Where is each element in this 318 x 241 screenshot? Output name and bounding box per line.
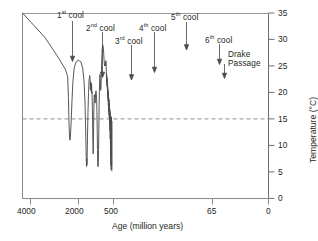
y-tick-label-5: 5: [278, 167, 283, 177]
cool2-word: cool: [99, 24, 114, 33]
x-tick-label-2000: 2000: [65, 206, 84, 216]
cool2-suffix: nd: [91, 22, 97, 28]
y-tick-label-0: 0: [278, 193, 283, 203]
drake-line-1: Drake: [228, 50, 261, 59]
arrow-5th-cool: [184, 22, 188, 50]
chart-plot-area: [0, 0, 318, 241]
temperature-curve: [23, 13, 112, 171]
cool4-word: cool: [151, 24, 166, 33]
x-tick-label-0: 0: [266, 206, 271, 216]
drake-line-2: Passage: [228, 59, 261, 68]
cool1-suffix: st: [62, 9, 67, 15]
arrow-1st-cool: [70, 21, 74, 62]
annotation-2nd-cool: 2nd cool: [86, 24, 115, 33]
annotation-drake-passage: Drake Passage: [228, 50, 261, 69]
cool1-word: cool: [69, 11, 84, 20]
x-tick-label-65: 65: [207, 206, 216, 216]
arrow-6th-cool: [217, 44, 221, 65]
cool3-word: cool: [127, 37, 142, 46]
arrow-4th-cool: [152, 32, 156, 73]
annotation-4th-cool: 4th cool: [139, 24, 166, 33]
y-axis-title: Temperature (°C): [308, 97, 318, 163]
y-tick-label-20: 20: [278, 87, 287, 97]
cool6-suffix: th: [210, 34, 215, 40]
annotation-1st-cool: 1st cool: [57, 11, 84, 20]
y-tick-label-25: 25: [278, 61, 287, 71]
annotation-5th-cool: 5th cool: [171, 13, 198, 22]
annotation-6th-cool: 6th cool: [205, 36, 232, 45]
arrow-3rd-cool: [129, 45, 133, 80]
y-tick-label-35: 35: [278, 8, 287, 18]
x-tick-label-4000: 4000: [17, 206, 36, 216]
cool5-word: cool: [183, 13, 198, 22]
annotation-3rd-cool: 3rd cool: [115, 37, 143, 46]
cool3-suffix: rd: [120, 35, 125, 41]
x-tick-label-500: 500: [104, 206, 118, 216]
cool5-suffix: th: [176, 11, 181, 17]
temperature-vs-age-chart: 1st cool 2nd cool 3rd cool 4th cool 5th …: [0, 0, 318, 241]
y-tick-label-30: 30: [278, 34, 287, 44]
arrow-drake-passage: [222, 64, 226, 79]
x-axis-ticks: [31, 199, 269, 205]
cool6-word: cool: [217, 36, 232, 45]
cool4-suffix: th: [144, 22, 149, 28]
y-axis-ticks: [269, 13, 275, 198]
y-tick-label-15: 15: [278, 114, 287, 124]
y-tick-label-10: 10: [278, 140, 287, 150]
x-axis-title: Age (million years): [112, 221, 183, 231]
